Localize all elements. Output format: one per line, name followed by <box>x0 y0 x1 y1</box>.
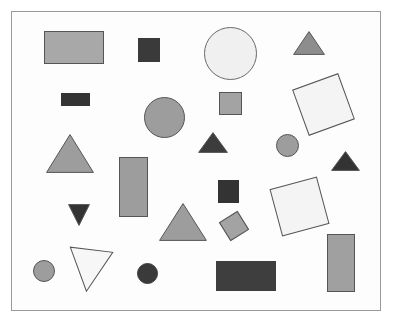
triangle-body <box>69 205 90 226</box>
shape-rectangle-0 <box>44 31 104 64</box>
shape-triangle-19 <box>65 246 114 294</box>
triangle-body <box>294 32 325 55</box>
shape-square-13 <box>218 180 239 203</box>
shape-rectangle-22 <box>216 261 276 291</box>
shape-triangle-8 <box>46 134 94 173</box>
shape-circle-21 <box>137 263 158 284</box>
shape-square-6 <box>219 92 242 115</box>
shape-rectangle-18 <box>327 234 355 292</box>
shape-rectangle-4 <box>61 93 90 106</box>
shape-square-14 <box>269 176 329 236</box>
shape-triangle-11 <box>331 151 360 171</box>
shape-square-7 <box>292 73 355 136</box>
shape-triangle-9 <box>198 132 228 153</box>
canvas-frame <box>11 11 381 311</box>
triangle-body <box>160 204 207 241</box>
shape-triangle-3 <box>293 31 325 55</box>
triangle-body <box>199 133 228 153</box>
triangle-body <box>332 152 360 171</box>
shape-triangle-16 <box>159 203 207 241</box>
triangle-body <box>65 247 113 294</box>
shapes-figure <box>0 0 393 324</box>
shape-circle-20 <box>33 260 55 282</box>
shape-circle-5 <box>144 97 185 138</box>
triangle-body <box>47 135 94 173</box>
shape-rectangle-12 <box>119 157 148 217</box>
shape-square-17 <box>219 211 249 241</box>
shape-square-1 <box>138 38 160 62</box>
shape-circle-2 <box>204 27 257 80</box>
shape-circle-10 <box>276 134 299 157</box>
shape-triangle-15 <box>68 204 90 226</box>
